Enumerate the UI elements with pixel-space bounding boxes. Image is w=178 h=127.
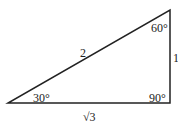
side-label-hypotenuse: 2 [80, 46, 86, 60]
angle-label-30: 30° [33, 91, 50, 105]
triangle-diagram: 60° 2 1 30° 90° √3 [0, 0, 178, 127]
angle-label-60: 60° [151, 21, 168, 35]
angle-label-90: 90° [149, 91, 166, 105]
right-triangle [8, 10, 170, 103]
side-label-horizontal: √3 [83, 110, 96, 124]
side-label-vertical: 1 [173, 51, 178, 65]
